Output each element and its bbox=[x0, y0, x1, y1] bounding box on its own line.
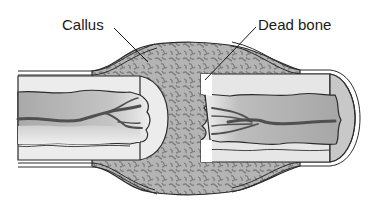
left-bone-fragment bbox=[18, 76, 168, 160]
right-bone-fragment bbox=[201, 74, 355, 162]
fracture-callus-diagram: Callus Dead bone bbox=[0, 0, 380, 212]
label-callus: Callus bbox=[62, 17, 104, 32]
label-dead-bone: Dead bone bbox=[258, 17, 331, 32]
